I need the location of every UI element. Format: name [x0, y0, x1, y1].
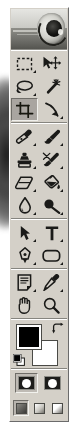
flyout-triangle-icon — [60, 143, 63, 146]
tool-crop-tool[interactable] — [11, 98, 38, 121]
mask-mode-buttons — [11, 369, 67, 396]
quick-mask-mode-button[interactable] — [41, 373, 64, 393]
standard-screen-mode-button[interactable] — [13, 400, 29, 416]
full-screen-with-menu-bar-button[interactable] — [31, 400, 47, 416]
tool-hand-tool[interactable] — [11, 294, 38, 317]
tool-path-selection-tool[interactable] — [11, 221, 38, 244]
flyout-triangle-icon — [60, 262, 63, 265]
flyout-triangle-icon — [33, 262, 36, 265]
paint-bucket-icon — [43, 175, 61, 191]
stamp-icon — [16, 152, 33, 168]
flyout-triangle-icon — [60, 189, 63, 192]
type-t-icon — [45, 225, 59, 241]
tool-history-brush-tool[interactable] — [38, 148, 65, 171]
tool-blur-tool[interactable] — [11, 194, 38, 217]
screen-mode-buttons — [11, 396, 67, 420]
photoshop-eye-logo[interactable] — [11, 9, 67, 50]
flyout-triangle-icon — [33, 143, 36, 146]
tool-healing-brush-tool[interactable] — [11, 125, 38, 148]
tool-row — [11, 75, 67, 98]
flyout-triangle-icon — [60, 166, 63, 169]
tool-group-annotation-navigation — [11, 269, 67, 319]
waterdrop-icon — [18, 197, 32, 214]
eyedropper-icon — [43, 274, 60, 291]
photoshop-toolbox-palette — [9, 7, 69, 422]
eye-glint — [58, 29, 63, 35]
quick-mask-mode-circle — [48, 379, 57, 388]
standard-mode-button[interactable] — [15, 373, 38, 393]
flyout-triangle-icon — [60, 239, 63, 242]
standard-mode-circle — [22, 379, 31, 388]
tool-group-selection — [11, 50, 67, 123]
swap-colors-icon[interactable] — [52, 322, 64, 334]
quick-mask-mode-icon — [44, 376, 61, 390]
marquee-icon — [16, 57, 33, 71]
tool-row — [11, 125, 67, 148]
tool-type-tool[interactable] — [38, 221, 65, 244]
slice-icon — [43, 102, 60, 118]
tool-row — [11, 98, 67, 121]
tool-rectangular-marquee-tool[interactable] — [11, 52, 38, 75]
magnifier-icon — [43, 297, 60, 314]
tool-clone-stamp-tool[interactable] — [11, 148, 38, 171]
rounded-rectangle-icon — [42, 249, 61, 263]
crop-icon — [16, 102, 34, 118]
tool-eraser-tool[interactable] — [11, 171, 38, 194]
pen-nib-icon — [18, 247, 32, 264]
lasso-icon — [15, 79, 35, 94]
healing-brush-icon — [15, 129, 34, 144]
foreground-color-swatch[interactable] — [17, 325, 41, 349]
history-brush-icon — [42, 152, 61, 168]
tool-group-vector-type — [11, 219, 67, 269]
tool-eyedropper-tool[interactable] — [38, 271, 65, 294]
tool-group-retouch-paint — [11, 123, 67, 219]
flyout-triangle-icon — [60, 289, 63, 292]
tool-pen-tool[interactable] — [11, 244, 38, 267]
flyout-triangle-icon — [33, 289, 36, 292]
tool-row — [11, 244, 67, 267]
notes-page-icon — [17, 274, 32, 291]
tool-row — [11, 271, 67, 294]
tool-rounded-rectangle-tool[interactable] — [38, 244, 65, 267]
tool-dodge-tool[interactable] — [38, 194, 65, 217]
standard-screen-mode-icon — [16, 403, 27, 414]
eye-pupil — [46, 20, 62, 37]
standard-mode-icon — [18, 376, 35, 390]
logo-streak-2 — [17, 34, 39, 35]
eraser-icon — [15, 176, 34, 190]
tool-notes-tool[interactable] — [11, 271, 38, 294]
tool-lasso-tool[interactable] — [11, 75, 38, 98]
tool-row — [11, 221, 67, 244]
flyout-triangle-icon — [33, 70, 36, 73]
full-screen-mode-button[interactable] — [49, 400, 65, 416]
eye-icon — [37, 13, 65, 44]
tool-row — [11, 148, 67, 171]
flyout-triangle-icon — [33, 93, 36, 96]
default-colors-icon[interactable] — [13, 354, 25, 366]
tool-row — [11, 294, 67, 317]
flyout-triangle-icon — [60, 116, 63, 119]
full-screen-with-menu-bar-icon — [34, 403, 45, 414]
flyout-triangle-icon — [33, 239, 36, 242]
flyout-triangle-icon — [33, 212, 36, 215]
tool-row — [11, 171, 67, 194]
tool-slice-tool[interactable] — [38, 98, 65, 121]
tool-row — [11, 194, 67, 217]
hand-icon — [16, 297, 33, 314]
black-arrow-icon — [19, 225, 31, 241]
tool-brush-tool[interactable] — [38, 125, 65, 148]
flyout-triangle-icon — [33, 189, 36, 192]
full-screen-mode-icon — [52, 403, 63, 414]
tool-magic-wand-tool[interactable] — [38, 75, 65, 98]
flyout-triangle-icon — [60, 212, 63, 215]
magic-wand-icon — [43, 79, 61, 95]
flyout-triangle-icon — [33, 166, 36, 169]
tool-gradient-tool[interactable] — [38, 171, 65, 194]
tool-move-tool[interactable] — [38, 52, 65, 75]
move-icon — [42, 56, 61, 71]
color-swatch-area — [11, 319, 67, 369]
dodge-icon — [43, 198, 61, 214]
paintbrush-icon — [43, 129, 61, 145]
tool-zoom-tool[interactable] — [38, 294, 65, 317]
tool-row — [11, 52, 67, 75]
